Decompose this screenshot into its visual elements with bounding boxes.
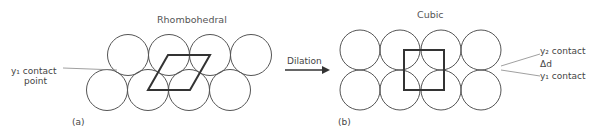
delta-d-label: Δd [540, 59, 552, 69]
rhombohedral-title: Rhombohedral [157, 15, 227, 25]
y1-contact-label-line1: y₁ contact [11, 66, 56, 76]
particle-circle [461, 30, 501, 70]
y1-contact-leader-line-a [63, 68, 117, 70]
y1-contact-label-line2: point [11, 76, 56, 86]
particle-circle [340, 30, 380, 70]
y1-contact-leader-line-b [501, 70, 540, 76]
y1-contact-label-b: y₁ contact [540, 71, 585, 81]
particle-circle [108, 35, 149, 76]
y1-contact-point-label: y₁ contact point [11, 66, 56, 86]
cubic-title: Cubic [417, 10, 444, 20]
y2-contact-label: y₂ contact [540, 46, 585, 56]
diagram-canvas [0, 0, 597, 135]
particle-circle [87, 70, 128, 111]
particle-circle [210, 70, 251, 111]
rhombohedral-packing [87, 35, 272, 111]
y2-contact-leader-line [501, 54, 540, 66]
particle-circle [231, 35, 272, 76]
panel-b-tag: (b) [338, 117, 351, 127]
panel-a-tag: (a) [72, 117, 85, 127]
dilation-arrow [285, 66, 330, 74]
cubic-packing [340, 30, 501, 110]
dilation-label: Dilation [287, 56, 322, 66]
particle-circle [461, 70, 501, 110]
particle-circle [340, 70, 380, 110]
